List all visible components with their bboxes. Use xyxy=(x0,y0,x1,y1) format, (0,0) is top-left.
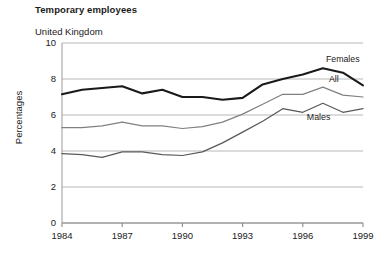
x-tick-label: 1993 xyxy=(232,230,253,241)
y-tick-label: 8 xyxy=(51,73,56,84)
x-axis-ticks: 198419871990199319961999 xyxy=(51,223,373,241)
x-tick-label: 1996 xyxy=(292,230,313,241)
series-label-all: All xyxy=(329,74,339,84)
y-tick-label: 6 xyxy=(51,109,56,120)
chart-figure: Temporary employees United Kingdom Perce… xyxy=(0,0,378,255)
series-labels: FemalesAllMales xyxy=(307,54,360,122)
y-tick-label: 2 xyxy=(51,181,56,192)
y-tick-label: 10 xyxy=(45,37,56,48)
x-tick-label: 1984 xyxy=(51,230,72,241)
y-tick-label: 0 xyxy=(51,217,56,228)
series-label-males: Males xyxy=(307,112,331,122)
x-tick-label: 1999 xyxy=(352,230,373,241)
y-tick-label: 4 xyxy=(51,145,56,156)
series-line-all xyxy=(62,87,363,128)
x-tick-label: 1990 xyxy=(172,230,193,241)
y-axis-ticks: 0246810 xyxy=(45,37,56,228)
x-tick-label: 1987 xyxy=(112,230,133,241)
series-line-females xyxy=(62,68,363,100)
series-label-females: Females xyxy=(326,54,360,64)
line-chart-plot: 0246810 198419871990199319961999 Females… xyxy=(0,0,378,255)
